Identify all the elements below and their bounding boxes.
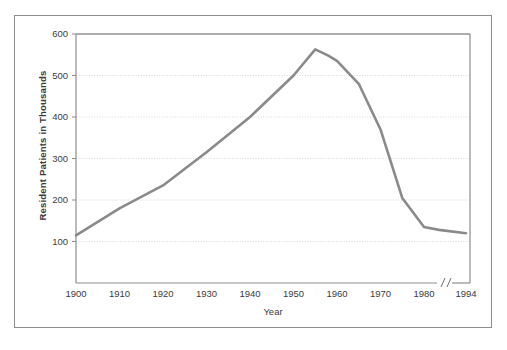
figure: Resident Patients in Thousands Year 1002… (0, 0, 507, 350)
line-chart-plot (0, 0, 507, 350)
series-line-resident-patients (76, 49, 466, 235)
axis-break-slash-1 (441, 278, 445, 287)
axis-break-icon (441, 278, 451, 287)
data-series (76, 49, 466, 235)
axis-break-slash-2 (447, 278, 451, 287)
